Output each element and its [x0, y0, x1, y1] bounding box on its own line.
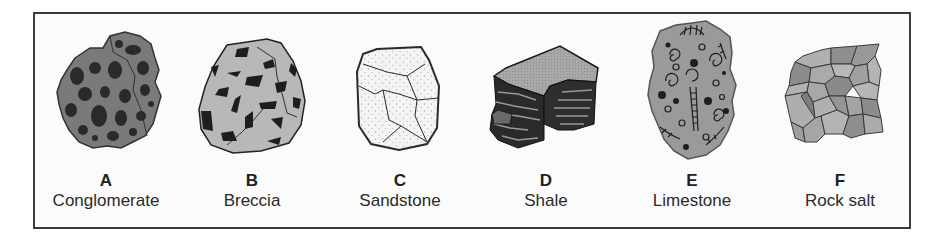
caption-conglomerate: A Conglomerate [53, 172, 160, 211]
caption-breccia: B Breccia [224, 172, 281, 211]
caption-rock-salt: F Rock salt [805, 172, 875, 211]
rock-name: Limestone [653, 190, 731, 211]
rock-letter: A [53, 172, 160, 190]
breccia-rock-icon [197, 37, 307, 157]
rock-name: Rock salt [805, 190, 875, 211]
rock-letter: D [524, 172, 567, 190]
caption-sandstone: C Sandstone [359, 172, 440, 211]
rock-letter: B [224, 172, 281, 190]
rock-name: Shale [524, 190, 567, 211]
rock-letter: C [359, 172, 440, 190]
caption-shale: D Shale [524, 172, 567, 211]
rock-letter: F [805, 172, 875, 190]
sandstone-rock-icon [353, 46, 445, 152]
rock-letter: E [653, 172, 731, 190]
rock-name: Sandstone [359, 190, 440, 211]
shale-rock-icon [488, 44, 606, 150]
rock-salt-crystal-icon [781, 42, 887, 144]
limestone-fossil-rock-icon [646, 19, 740, 161]
rock-name: Breccia [224, 190, 281, 211]
conglomerate-rock-icon [55, 30, 165, 152]
rock-name: Conglomerate [53, 190, 160, 211]
caption-limestone: E Limestone [653, 172, 731, 211]
